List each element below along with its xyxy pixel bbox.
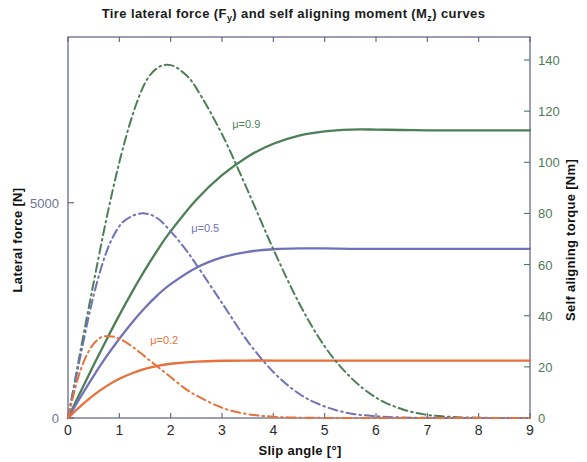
x-tick-label: 8: [475, 422, 483, 438]
x-tick-label: 4: [269, 422, 277, 438]
x-axis-ticks: 0123456789: [64, 37, 534, 438]
y-tick-label-right: 80: [538, 206, 552, 221]
y-axis-label-right: Self aligning torque [Nm]: [563, 159, 578, 321]
y-tick-label-right: 20: [538, 360, 552, 375]
x-tick-label: 7: [423, 422, 431, 438]
curve-annotations: μ=0.9μ=0.5μ=0.2: [150, 118, 260, 346]
annotation-mu-label: μ=0.2: [150, 334, 178, 346]
y-tick-label-right: 120: [538, 104, 560, 119]
curve-aligning-torque: [68, 65, 530, 418]
x-tick-label: 2: [167, 422, 175, 438]
curve-lateral-force: [68, 129, 530, 418]
y-tick-label-left: 5000: [30, 196, 59, 211]
y-tick-label-right: 60: [538, 258, 552, 273]
y-axis-right-ticks: 020406080100120140: [524, 53, 560, 426]
annotation-mu-label: μ=0.9: [232, 118, 260, 130]
y-tick-label-right: 140: [538, 53, 560, 68]
curve-aligning-torque: [68, 336, 530, 418]
annotation-mu-label: μ=0.5: [191, 222, 219, 234]
y-tick-label-right: 0: [538, 411, 545, 426]
y-tick-label-right: 100: [538, 155, 560, 170]
x-tick-label: 3: [218, 422, 226, 438]
x-tick-label: 1: [115, 422, 123, 438]
plot-area: 0123456789 05000 020406080100120140 μ=0.…: [0, 0, 587, 462]
x-tick-label: 6: [372, 422, 380, 438]
y-axis-label-left: Lateral force [N]: [10, 188, 25, 293]
curve-lateral-force: [68, 361, 530, 418]
curve-group: [68, 65, 530, 418]
chart-figure: Tire lateral force (Fy) and self alignin…: [0, 0, 587, 462]
y-tick-label-right: 40: [538, 309, 552, 324]
x-axis-label: Slip angle [°]: [258, 443, 341, 458]
x-tick-label: 5: [321, 422, 329, 438]
x-tick-label: 9: [526, 422, 534, 438]
y-tick-label-left: 0: [52, 411, 59, 426]
x-tick-label: 0: [64, 422, 72, 438]
